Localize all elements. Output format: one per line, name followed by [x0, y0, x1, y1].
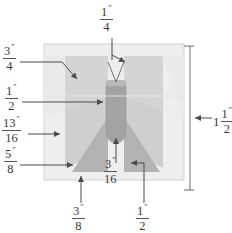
left4-denominator: 8: [7, 162, 13, 176]
top-numerator: 1: [101, 6, 107, 19]
left2-denominator: 2: [8, 99, 14, 113]
center-slot: [106, 83, 126, 143]
left4-inch-mark: ″: [12, 147, 15, 155]
dimension-label-lower-taper-height: 5″ 8: [4, 148, 17, 175]
left-upper-wedge-taper: [44, 56, 65, 118]
right-inch-mark: ″: [229, 107, 232, 115]
left3-denominator: 16: [5, 131, 18, 145]
left1-denominator: 4: [6, 59, 12, 73]
left2-inch-mark: ″: [13, 84, 16, 92]
dimension-label-overall-height: 1 1″ 2: [213, 108, 232, 135]
left1-numerator: 3: [4, 45, 10, 58]
dimension-label-slot-width: 1″ 2: [5, 85, 18, 112]
top-inch-mark: ″: [108, 5, 111, 13]
center-inch-mark: ″: [112, 157, 115, 165]
diagram-canvas: 1″ 4 3″ 4 1″ 2 13″ 16 5″ 8 3″ 16 1 1″ 2 …: [0, 0, 232, 232]
right-denominator: 2: [224, 122, 230, 136]
dimension-label-slot-root-radius: 3″ 16: [104, 158, 117, 185]
right-whole: 1: [213, 115, 220, 128]
left3-inch-mark: ″: [17, 116, 20, 124]
bottom2-numerator: 1: [137, 205, 143, 218]
dimension-label-side-flat-height: 13″ 16: [2, 117, 21, 144]
dimension-label-right-triangle-offset: 1″ 2: [136, 205, 149, 232]
top-denominator: 4: [103, 20, 109, 34]
dimension-label-bottom-triangle-base: 3″ 8: [72, 205, 85, 232]
left2-numerator: 1: [6, 85, 12, 98]
bottom1-inch-mark: ″: [80, 204, 83, 212]
center-denominator: 16: [104, 172, 117, 186]
left4-numerator: 5: [5, 148, 11, 161]
dimension-label-slot-top-width: 1″ 4: [100, 6, 113, 33]
center-numerator: 3: [105, 158, 111, 171]
left1-inch-mark: ″: [11, 44, 14, 52]
right-numerator: 1: [222, 108, 228, 121]
dimension-label-upper-taper-depth: 3″ 4: [3, 45, 16, 72]
bottom2-denominator: 2: [139, 219, 145, 233]
bottom2-inch-mark: ″: [144, 204, 147, 212]
left3-numerator: 13: [3, 117, 16, 130]
bottom1-numerator: 3: [73, 205, 79, 218]
technical-drawing-svg: [0, 0, 232, 232]
bottom1-denominator: 8: [75, 219, 81, 233]
